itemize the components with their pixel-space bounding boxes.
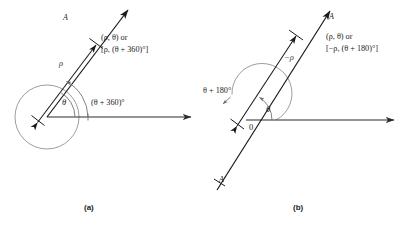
outer-arc-direction-b: [223, 97, 231, 104]
point-label-a-prime-b: A′: [219, 175, 226, 184]
point-label-b: A: [329, 12, 334, 21]
panel-caption-a: (a): [84, 203, 94, 212]
origin-label-b: 0: [249, 122, 253, 132]
coordinate-line-2-a: [ρ, (θ + 360)°]: [101, 44, 148, 56]
theta-plus-180-label-b: θ + 180°: [203, 86, 231, 95]
theta-plus-360-label-a: (θ + 360)°: [91, 98, 125, 107]
theta-label-a: θ: [62, 97, 66, 107]
coordinate-line-1-b: (ρ, θ) or: [326, 31, 378, 43]
coordinate-line-2-b: [−ρ, (θ + 180)°]: [326, 43, 378, 55]
point-label-a: A: [63, 13, 68, 22]
theta-plus-180-arc-b: [232, 63, 292, 120]
coordinate-annotation-b: (ρ, θ) or [−ρ, (θ + 180)°]: [326, 31, 378, 55]
polar-coordinates-figure: A (ρ, θ) or [ρ, (θ + 360)°] ρ θ (θ + 360…: [0, 0, 403, 228]
panel-caption-b: (b): [293, 203, 303, 212]
neg-rho-label-b: −ρ: [284, 52, 294, 62]
theta-label-b: θ: [266, 104, 270, 114]
point-a-tick-b: [289, 30, 303, 40]
origin-tick-a: [32, 116, 45, 126]
coordinate-line-1-a: (ρ, θ) or: [101, 32, 148, 44]
origin-tick-b: [231, 119, 245, 129]
terminal-line-b: [217, 11, 330, 190]
rho-label-a: ρ: [59, 58, 63, 68]
coordinate-annotation-a: (ρ, θ) or [ρ, (θ + 360)°]: [101, 32, 148, 56]
